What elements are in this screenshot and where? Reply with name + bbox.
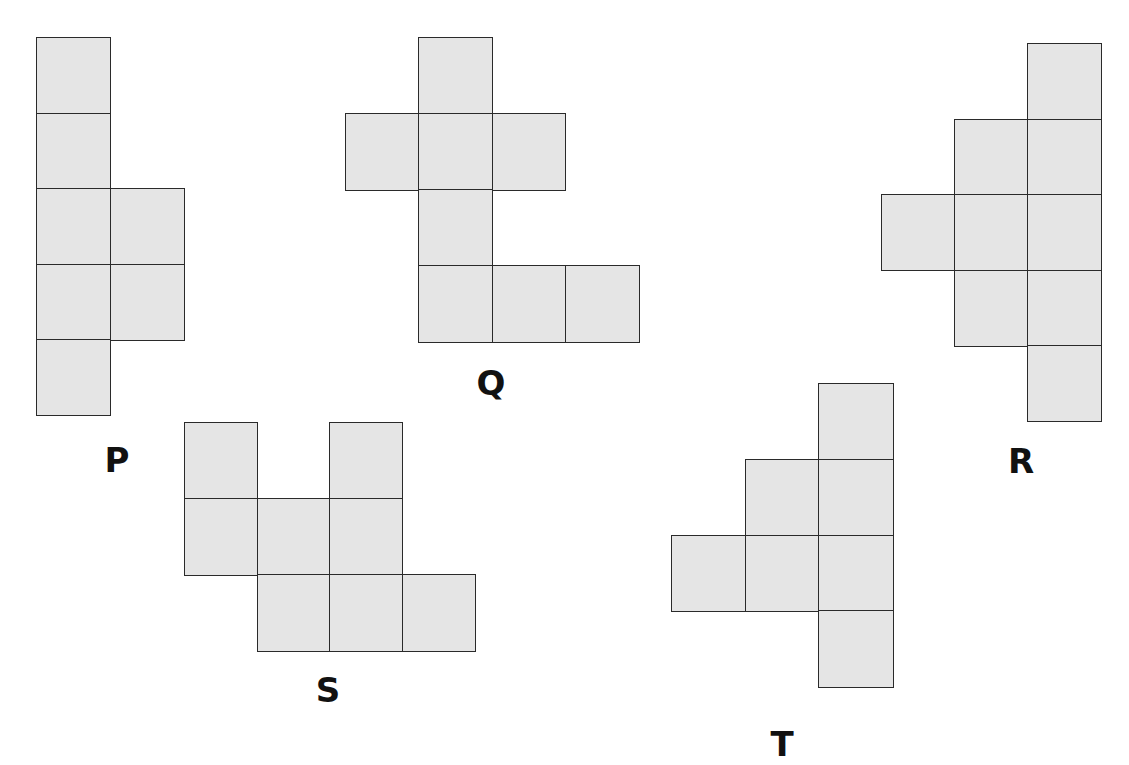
net-square bbox=[492, 265, 567, 343]
net-square bbox=[110, 264, 185, 341]
net-square bbox=[418, 113, 493, 191]
net-square bbox=[881, 194, 956, 271]
net-label-p: P bbox=[105, 443, 130, 477]
net-square bbox=[954, 119, 1029, 196]
net-square bbox=[329, 574, 403, 652]
net-square bbox=[184, 422, 258, 500]
net-label-q: Q bbox=[477, 366, 506, 400]
net-square bbox=[329, 498, 403, 576]
net-square bbox=[184, 498, 258, 576]
net-square bbox=[110, 188, 185, 265]
net-square bbox=[418, 37, 493, 115]
net-label-s: S bbox=[316, 673, 341, 707]
net-square bbox=[36, 113, 111, 190]
net-square bbox=[257, 574, 331, 652]
net-label-t: T bbox=[770, 727, 793, 761]
net-square bbox=[492, 113, 567, 191]
net-square bbox=[954, 194, 1029, 271]
net-square bbox=[818, 459, 893, 536]
net-square bbox=[745, 535, 820, 612]
net-square bbox=[36, 264, 111, 341]
net-square bbox=[565, 265, 640, 343]
net-square bbox=[329, 422, 403, 500]
net-square bbox=[745, 459, 820, 536]
net-square bbox=[671, 535, 746, 612]
net-square bbox=[36, 37, 111, 114]
net-square bbox=[954, 270, 1029, 347]
net-square bbox=[402, 574, 476, 652]
net-label-r: R bbox=[1008, 444, 1034, 478]
net-square bbox=[1027, 43, 1102, 120]
net-square bbox=[1027, 119, 1102, 196]
net-square bbox=[818, 535, 893, 612]
net-square bbox=[1027, 270, 1102, 347]
net-square bbox=[818, 383, 893, 460]
net-square bbox=[36, 188, 111, 265]
net-square bbox=[818, 610, 893, 687]
net-square bbox=[1027, 345, 1102, 422]
net-square bbox=[418, 189, 493, 267]
net-square bbox=[418, 265, 493, 343]
net-square bbox=[345, 113, 420, 191]
net-square bbox=[257, 498, 331, 576]
net-square bbox=[36, 339, 111, 416]
net-square bbox=[1027, 194, 1102, 271]
